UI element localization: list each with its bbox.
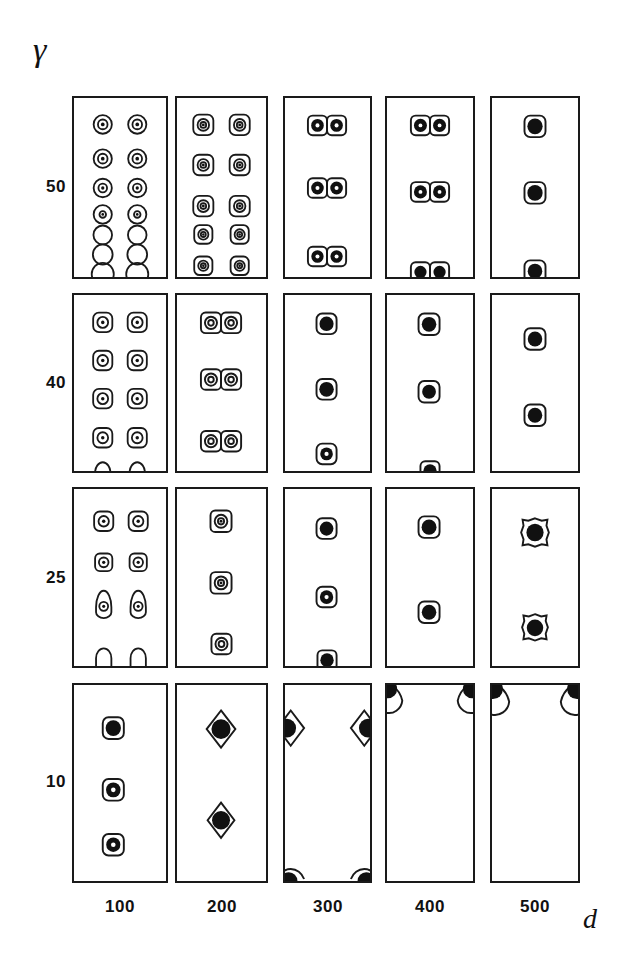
col-label-d-500: 500 — [490, 897, 580, 917]
col-label-d-100: 100 — [75, 897, 165, 917]
panel-g10-d300 — [283, 683, 372, 883]
row-label-gamma-50: 50 — [22, 177, 66, 197]
panel-g25-d100 — [72, 487, 168, 668]
col-label-d-400: 400 — [385, 897, 475, 917]
row-label-gamma-40: 40 — [22, 373, 66, 393]
panel-g25-d400 — [385, 487, 475, 668]
panel-g40-d400 — [385, 293, 475, 473]
panel-g50-d400 — [385, 96, 475, 279]
panel-g10-d200 — [175, 683, 268, 883]
col-label-d-300: 300 — [283, 897, 373, 917]
panel-g10-d100 — [72, 683, 168, 883]
panel-g25-d500 — [490, 487, 580, 668]
panel-g40-d500 — [490, 293, 580, 473]
panel-g40-d300 — [283, 293, 372, 473]
contour-panel-figure: γ d 50 40 25 10 100 200 300 400 500 — [0, 0, 619, 971]
panel-g40-d200 — [175, 293, 268, 473]
panel-g50-d100 — [72, 96, 168, 279]
row-label-gamma-10: 10 — [22, 772, 66, 792]
x-axis-label-d: d — [583, 905, 597, 933]
y-axis-label-gamma: γ — [33, 33, 46, 67]
panel-g40-d100 — [72, 293, 168, 473]
panel-g50-d500 — [490, 96, 580, 279]
col-label-d-200: 200 — [177, 897, 267, 917]
panel-g50-d200 — [175, 96, 268, 279]
panel-g10-d500 — [490, 683, 580, 883]
row-label-gamma-25: 25 — [22, 568, 66, 588]
panel-g25-d200 — [175, 487, 268, 668]
panel-g25-d300 — [283, 487, 372, 668]
panel-g50-d300 — [283, 96, 372, 279]
panel-g10-d400 — [385, 683, 475, 883]
